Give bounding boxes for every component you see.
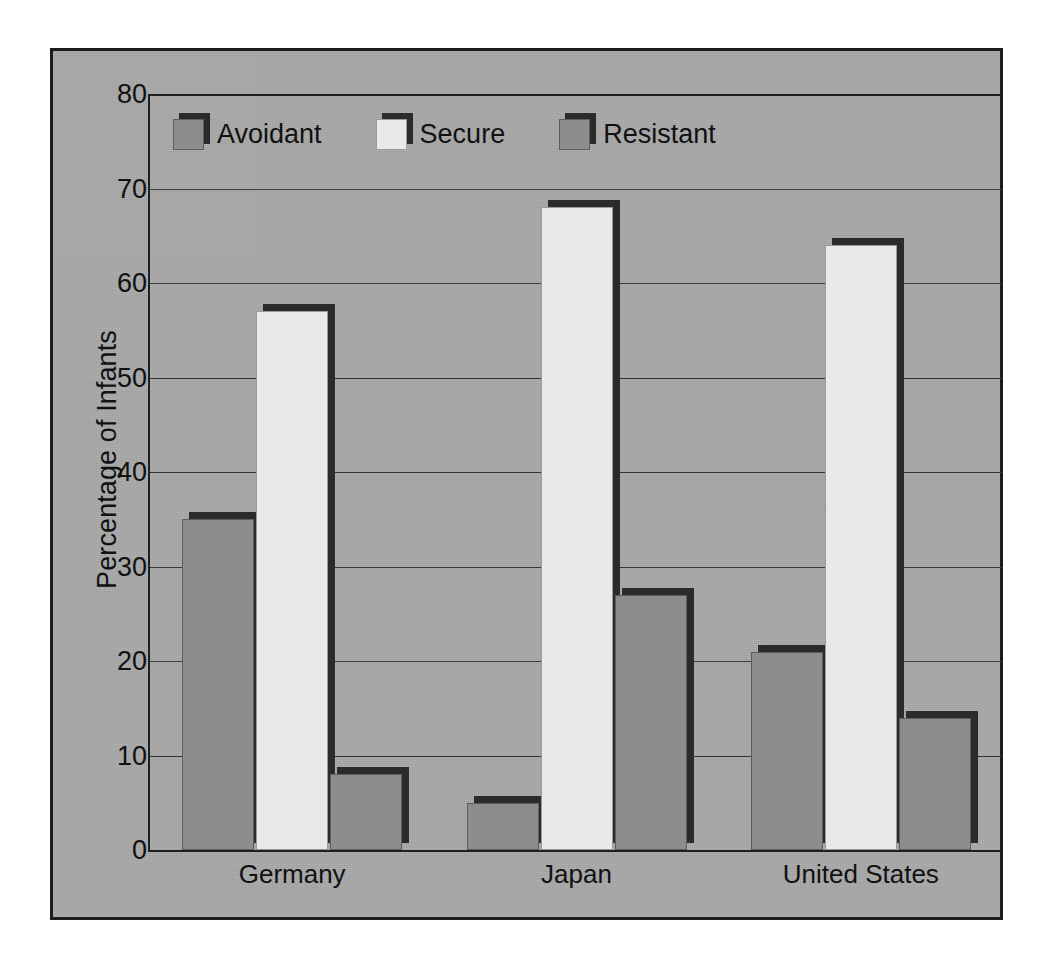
chart-legend: AvoidantSecureResistant: [173, 119, 716, 150]
legend-swatch-resistant: [559, 119, 590, 150]
legend-label-secure: Secure: [420, 119, 506, 150]
y-tick-label-20: 20: [75, 646, 147, 677]
x-category-label-germany: Germany: [239, 859, 346, 890]
bar-body: [825, 245, 897, 850]
x-category-label-united-states: United States: [783, 859, 939, 890]
bar-group-germany: [182, 94, 402, 850]
legend-swatch-body: [559, 119, 590, 150]
bar-japan-avoidant: [467, 803, 539, 850]
y-tick-label-80: 80: [75, 79, 147, 110]
y-axis-tick-labels: 01020304050607080: [75, 77, 147, 877]
bar-group-japan: [467, 94, 687, 850]
bar-group-united-states: [751, 94, 971, 850]
bar-germany-avoidant: [182, 519, 254, 850]
bar-body: [182, 519, 254, 850]
legend-swatch-body: [376, 119, 407, 150]
bar-united-states-resistant: [899, 718, 971, 850]
bar-body: [256, 311, 328, 850]
bar-japan-secure: [541, 207, 613, 850]
legend-entry-avoidant: Avoidant: [173, 119, 322, 150]
bar-japan-resistant: [615, 595, 687, 850]
bar-body: [615, 595, 687, 850]
legend-swatch-secure: [376, 119, 407, 150]
bar-body: [751, 652, 823, 850]
bar-germany-secure: [256, 311, 328, 850]
x-axis-category-labels: GermanyJapanUnited States: [150, 859, 1003, 909]
bar-body: [467, 803, 539, 850]
bar-united-states-secure: [825, 245, 897, 850]
y-tick-label-60: 60: [75, 268, 147, 299]
legend-entry-resistant: Resistant: [559, 119, 716, 150]
legend-entry-secure: Secure: [376, 119, 506, 150]
bar-germany-resistant: [330, 774, 402, 850]
legend-swatch-body: [173, 119, 204, 150]
bar-united-states-avoidant: [751, 652, 823, 850]
y-tick-label-40: 40: [75, 457, 147, 488]
legend-swatch-avoidant: [173, 119, 204, 150]
plot-area: [148, 94, 1003, 852]
bars-layer: [150, 94, 1003, 850]
y-tick-label-10: 10: [75, 740, 147, 771]
bar-body: [330, 774, 402, 850]
y-tick-label-30: 30: [75, 551, 147, 582]
legend-label-avoidant: Avoidant: [217, 119, 322, 150]
chart-figure-panel: Percentage of Infants 01020304050607080 …: [50, 48, 1003, 920]
bar-body: [541, 207, 613, 850]
y-tick-label-50: 50: [75, 362, 147, 393]
y-tick-label-0: 0: [75, 835, 147, 866]
x-category-label-japan: Japan: [541, 859, 612, 890]
bar-body: [899, 718, 971, 850]
legend-label-resistant: Resistant: [603, 119, 716, 150]
y-tick-label-70: 70: [75, 173, 147, 204]
